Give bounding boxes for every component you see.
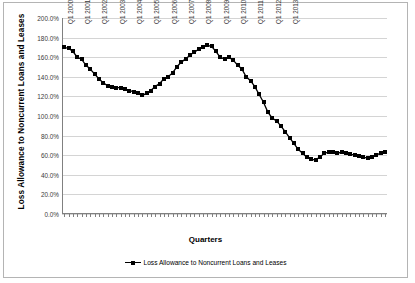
data-point <box>158 82 162 86</box>
x-axis-title: Quarters <box>4 235 407 244</box>
x-tick <box>168 214 169 217</box>
x-tick <box>160 214 161 217</box>
x-tick <box>290 214 291 217</box>
y-tick-label: 160.0% <box>37 54 59 61</box>
x-tick <box>324 214 325 217</box>
x-tick <box>268 214 269 217</box>
x-tick <box>277 214 278 217</box>
x-tick <box>381 214 382 217</box>
x-tick <box>238 214 239 217</box>
x-tick <box>216 214 217 217</box>
x-tick <box>199 214 200 217</box>
data-point <box>214 49 218 53</box>
x-tick <box>203 214 204 217</box>
x-tick <box>259 214 260 217</box>
x-tick <box>311 214 312 217</box>
y-tick-label: 20.0% <box>41 191 59 198</box>
chart-frame: Loss Allowance to Noncurrent Loans and L… <box>3 2 408 278</box>
data-point <box>149 89 153 93</box>
x-tick <box>320 214 321 217</box>
x-tick <box>251 214 252 217</box>
data-point <box>231 58 235 62</box>
x-tick <box>372 214 373 217</box>
x-tick <box>355 214 356 217</box>
x-tick <box>121 214 122 217</box>
x-tick <box>346 214 347 217</box>
x-tick <box>225 214 226 217</box>
x-tick <box>285 214 286 217</box>
data-point <box>292 141 296 145</box>
x-tick <box>385 214 386 217</box>
x-tick <box>64 214 65 217</box>
data-point <box>166 75 170 79</box>
y-tick-label: 180.0% <box>37 34 59 41</box>
x-tick <box>303 214 304 217</box>
data-point <box>80 57 84 61</box>
x-tick <box>316 214 317 217</box>
data-point <box>253 85 257 89</box>
x-tick <box>181 214 182 217</box>
x-tick <box>147 214 148 217</box>
data-point <box>283 130 287 134</box>
data-point <box>171 71 175 75</box>
data-point <box>93 72 97 76</box>
data-point <box>175 65 179 69</box>
x-tick <box>294 214 295 217</box>
x-tick <box>207 214 208 217</box>
data-point <box>262 100 266 104</box>
data-point <box>288 136 292 140</box>
x-tick <box>186 214 187 217</box>
x-tick <box>151 214 152 217</box>
y-axis-title: Loss Allowance to Noncurrent Loans and L… <box>17 12 26 212</box>
y-tick-label: 40.0% <box>41 171 59 178</box>
x-tick <box>138 214 139 217</box>
x-tick <box>333 214 334 217</box>
plot-area: 200.0%180.0%160.0%140.0%120.0%100.0%80.0… <box>62 18 387 214</box>
x-tick <box>359 214 360 217</box>
data-point <box>88 67 92 71</box>
y-tick-label: 60.0% <box>41 152 59 159</box>
x-tick <box>264 214 265 217</box>
series-line <box>62 18 387 214</box>
data-point <box>249 79 253 83</box>
y-tick-label: 80.0% <box>41 132 59 139</box>
data-point <box>257 92 261 96</box>
x-tick <box>220 214 221 217</box>
x-tick <box>164 214 165 217</box>
x-tick <box>233 214 234 217</box>
data-point <box>240 67 244 71</box>
x-tick <box>142 214 143 217</box>
x-tick <box>255 214 256 217</box>
x-tick <box>173 214 174 217</box>
x-tick <box>337 214 338 217</box>
data-point <box>184 57 188 61</box>
x-tick <box>112 214 113 217</box>
x-tick <box>125 214 126 217</box>
x-tick <box>350 214 351 217</box>
x-tick <box>90 214 91 217</box>
x-tick <box>194 214 195 217</box>
x-tick <box>99 214 100 217</box>
x-tick <box>134 214 135 217</box>
data-point <box>383 150 387 154</box>
x-tick <box>190 214 191 217</box>
data-point <box>210 44 214 48</box>
x-tick <box>73 214 74 217</box>
x-tick <box>272 214 273 217</box>
x-tick <box>307 214 308 217</box>
x-tick <box>108 214 109 217</box>
data-point <box>71 49 75 53</box>
x-tick <box>342 214 343 217</box>
x-tick <box>86 214 87 217</box>
x-tick <box>229 214 230 217</box>
x-tick <box>177 214 178 217</box>
x-tick <box>242 214 243 217</box>
data-point <box>266 110 270 114</box>
x-tick <box>376 214 377 217</box>
y-tick-label: 140.0% <box>37 73 59 80</box>
x-tick <box>281 214 282 217</box>
x-tick <box>329 214 330 217</box>
x-tick <box>212 214 213 217</box>
x-tick <box>77 214 78 217</box>
x-tick <box>69 214 70 217</box>
